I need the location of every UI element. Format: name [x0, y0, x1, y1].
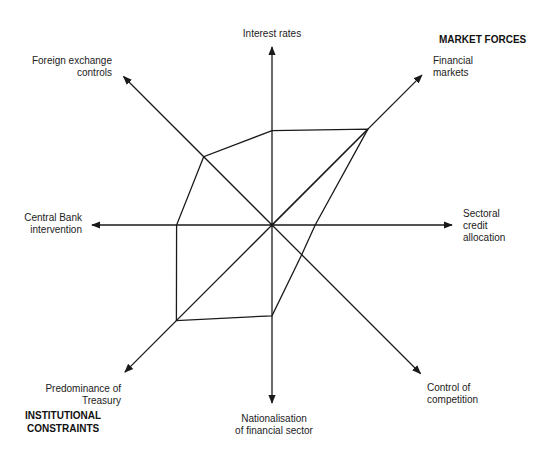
- axis-label-text: of financial sector: [222, 425, 326, 437]
- axis-label-financial-markets: Financial markets: [433, 55, 473, 79]
- axis-control-of-competition: [272, 225, 421, 374]
- axis-label-text: credit: [463, 220, 505, 232]
- group-label-text: INSTITUTIONAL: [25, 409, 101, 422]
- axis-foreign-exchange-controls: [124, 77, 273, 226]
- axis-label-predominance-of-treasury: Predominance of Treasury: [30, 383, 121, 407]
- axis-label-central-bank-intervention: Central Bank intervention: [10, 212, 82, 236]
- axis-label-text: Treasury: [30, 395, 121, 407]
- group-label-text: MARKET FORCES: [439, 34, 526, 45]
- axis-label-text: Foreign exchange: [22, 55, 112, 67]
- axis-label-text: Financial: [433, 55, 473, 67]
- axis-label-text: markets: [433, 67, 473, 79]
- axis-label-control-of-competition: Control of competition: [427, 382, 478, 406]
- axis-label-text: Predominance of: [30, 383, 121, 395]
- axis-label-text: competition: [427, 394, 478, 406]
- radar-extra-lines: [270, 129, 368, 227]
- group-label-text: CONSTRAINTS: [25, 422, 101, 435]
- axis-label-text: Interest rates: [243, 28, 301, 39]
- axis-label-text: Sectoral: [463, 208, 505, 220]
- axis-label-foreign-exchange-controls: Foreign exchange controls: [22, 55, 112, 79]
- axis-label-interest-rates: Interest rates: [232, 28, 312, 40]
- axis-label-text: Central Bank: [10, 212, 82, 224]
- group-label-market-forces: MARKET FORCES: [439, 33, 526, 46]
- center-point: [270, 223, 274, 227]
- axis-predominance-of-treasury: [125, 225, 272, 372]
- center-to-financial-line: [272, 129, 368, 225]
- axis-label-sectoral-credit-allocation: Sectoral credit allocation: [463, 208, 505, 244]
- axis-label-text: allocation: [463, 232, 505, 244]
- group-label-institutional-constraints: INSTITUTIONAL CONSTRAINTS: [25, 409, 101, 435]
- axis-label-text: Control of: [427, 382, 478, 394]
- axis-label-nationalisation: Nationalisation of financial sector: [222, 413, 326, 437]
- axis-label-text: controls: [22, 67, 112, 79]
- axis-label-text: Nationalisation: [222, 413, 326, 425]
- axis-label-text: intervention: [10, 224, 82, 236]
